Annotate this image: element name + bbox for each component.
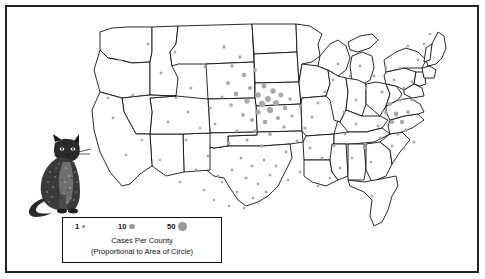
case-dot bbox=[285, 151, 288, 154]
case-dot bbox=[125, 154, 128, 157]
case-dot bbox=[403, 87, 406, 90]
case-dot bbox=[141, 139, 144, 142]
case-dot bbox=[282, 125, 285, 128]
case-dot bbox=[349, 75, 352, 78]
case-dot bbox=[257, 183, 260, 186]
case-dot bbox=[243, 207, 246, 210]
case-dot bbox=[400, 120, 404, 124]
case-dot bbox=[220, 95, 223, 98]
case-dot bbox=[429, 33, 432, 36]
case-dot bbox=[355, 123, 358, 126]
case-dot bbox=[399, 67, 402, 70]
case-dot bbox=[214, 123, 217, 126]
case-dot bbox=[262, 84, 267, 89]
case-dot bbox=[299, 171, 302, 174]
case-dot bbox=[226, 81, 230, 85]
case-dot bbox=[231, 169, 234, 172]
case-dot bbox=[380, 90, 383, 93]
case-dot bbox=[195, 169, 198, 172]
case-dot bbox=[355, 99, 358, 102]
case-dot bbox=[311, 116, 314, 119]
case-dot bbox=[267, 107, 273, 113]
case-dot bbox=[283, 106, 287, 110]
case-dot bbox=[394, 112, 399, 117]
case-dot bbox=[245, 177, 248, 180]
case-dot bbox=[398, 98, 402, 102]
case-dot bbox=[384, 111, 388, 115]
case-dot bbox=[118, 58, 121, 61]
case-dot bbox=[276, 116, 280, 120]
case-dot bbox=[236, 191, 239, 194]
case-dot bbox=[290, 114, 293, 117]
case-dot bbox=[263, 159, 266, 162]
case-dot bbox=[248, 86, 252, 90]
case-dot bbox=[185, 139, 188, 142]
case-dot bbox=[250, 118, 254, 122]
case-dot bbox=[391, 145, 394, 148]
case-dot bbox=[407, 45, 410, 48]
case-dot bbox=[299, 105, 302, 108]
case-dot bbox=[240, 157, 243, 160]
case-dot bbox=[275, 165, 278, 168]
cat-illustration bbox=[22, 132, 92, 220]
case-dot bbox=[132, 94, 135, 97]
case-dot bbox=[190, 87, 193, 90]
case-dot bbox=[250, 164, 253, 167]
case-dot bbox=[242, 73, 246, 77]
legend-key-1: 1 bbox=[75, 218, 85, 235]
case-dot bbox=[259, 101, 265, 107]
case-dot bbox=[252, 197, 255, 200]
case-dot bbox=[324, 91, 327, 94]
case-dot bbox=[333, 145, 336, 148]
case-dot bbox=[317, 102, 320, 105]
case-dot bbox=[238, 55, 241, 58]
case-dot bbox=[175, 97, 178, 100]
case-dot bbox=[361, 179, 364, 182]
case-dot bbox=[265, 191, 268, 194]
case-dot bbox=[373, 75, 376, 78]
case-dot bbox=[179, 181, 182, 184]
case-dot bbox=[351, 157, 354, 160]
case-dot bbox=[309, 147, 312, 150]
case-dot bbox=[253, 68, 257, 72]
case-dot bbox=[411, 81, 414, 84]
case-dot bbox=[359, 65, 362, 68]
case-dot bbox=[403, 147, 406, 150]
case-dot bbox=[160, 72, 163, 75]
legend-caption: Cases Per County (Proportional to Area o… bbox=[63, 235, 221, 257]
legend-keys: 1 10 50 bbox=[63, 218, 221, 235]
case-dot bbox=[329, 177, 332, 180]
case-dot bbox=[339, 167, 342, 170]
case-dot bbox=[423, 43, 426, 46]
case-dot bbox=[288, 97, 292, 101]
case-dot bbox=[207, 155, 210, 158]
case-dot bbox=[203, 65, 206, 68]
case-dot bbox=[234, 92, 239, 97]
case-dot bbox=[377, 125, 380, 128]
case-dot bbox=[337, 63, 340, 66]
case-dot bbox=[255, 109, 260, 114]
case-dot bbox=[245, 138, 248, 141]
case-dot bbox=[244, 98, 249, 103]
legend-caption-subtitle: (Proportional to Area of Circle) bbox=[63, 246, 221, 257]
legend-key-dot-10 bbox=[129, 224, 134, 229]
case-dot bbox=[147, 43, 150, 46]
legend-key-label: 10 bbox=[118, 223, 126, 231]
legend-key-label: 50 bbox=[167, 223, 175, 231]
case-dot bbox=[221, 181, 224, 184]
case-dot bbox=[255, 92, 261, 98]
case-dot bbox=[265, 96, 271, 102]
case-dot bbox=[363, 147, 366, 150]
case-dot bbox=[404, 128, 407, 131]
case-dot bbox=[241, 113, 245, 117]
legend-key-label: 1 bbox=[75, 223, 79, 231]
case-dot bbox=[321, 157, 324, 160]
case-dot bbox=[388, 102, 392, 106]
case-dot bbox=[187, 111, 190, 114]
case-dot bbox=[396, 132, 399, 135]
case-dot bbox=[263, 120, 268, 125]
case-dot bbox=[279, 93, 284, 98]
case-dot bbox=[235, 129, 238, 132]
case-dot bbox=[167, 121, 170, 124]
legend-key-50: 50 bbox=[167, 218, 187, 235]
